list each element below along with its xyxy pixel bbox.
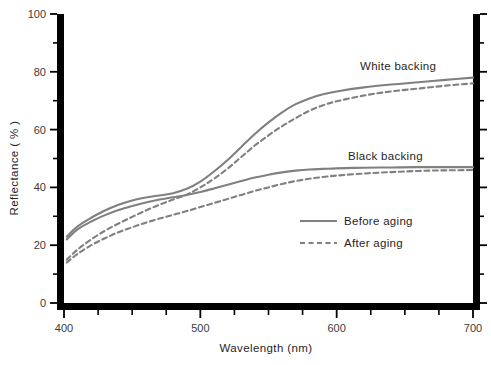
y-axis-tick-label: 100	[28, 8, 46, 20]
curves-layer	[67, 78, 473, 263]
x-axis-tick-label: 700	[464, 322, 482, 334]
y-axis-tick-label: 60	[34, 124, 46, 136]
legend-label-after-aging: After aging	[344, 237, 403, 249]
chart-canvas: 020406080100400500600700 Wavelength (nm)…	[0, 0, 491, 365]
tick-labels-layer: 020406080100400500600700	[28, 8, 483, 334]
y-axis-tick-label: 0	[40, 297, 46, 309]
x-axis-title: Wavelength (nm)	[219, 342, 312, 354]
axes-layer	[57, 14, 480, 310]
y-axis-line	[57, 14, 64, 310]
legend-label-before-aging: Before aging	[344, 215, 413, 227]
x-axis-line	[57, 303, 480, 310]
y-axis-tick-label: 80	[34, 66, 46, 78]
x-axis-tick-label: 600	[327, 322, 345, 334]
right-axis-line	[473, 14, 480, 310]
legend: Before aging After aging	[300, 215, 413, 249]
y-axis-tick-label: 20	[34, 239, 46, 251]
y-axis-title: Reflectance ( % )	[8, 121, 20, 216]
reflectance-chart-figure: 020406080100400500600700 Wavelength (nm)…	[0, 0, 491, 365]
annotation-black-backing: Black backing	[348, 150, 423, 162]
y-axis-tick-label: 40	[34, 181, 46, 193]
x-axis-tick-label: 500	[191, 322, 209, 334]
x-axis-tick-label: 400	[55, 322, 73, 334]
annotation-white-backing: White backing	[360, 60, 436, 72]
